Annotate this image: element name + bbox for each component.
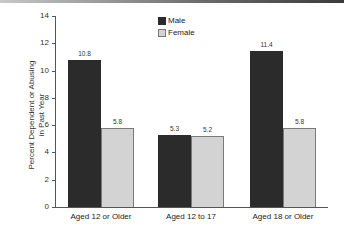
y-tick [52,125,56,126]
y-tick-label: 12 [29,38,49,47]
value-label: 5.3 [158,125,192,132]
top-border [0,0,344,3]
value-label: 5.8 [101,118,135,125]
legend-label-female: Female [168,27,195,39]
legend-item-female: Female [158,27,195,39]
female-swatch-icon [158,29,166,37]
category-label: Aged 12 to 17 [146,212,236,221]
y-tick [52,180,56,181]
y-tick [52,71,56,72]
y-tick [52,152,56,153]
bar-male [68,60,101,207]
y-axis-label: Percent Dependent or Abusing in Past Yea… [27,40,47,190]
y-tick-label: 8 [29,93,49,102]
y-tick-label: 10 [29,66,49,75]
value-label: 10.8 [68,50,102,57]
value-label: 11.4 [250,41,284,48]
male-swatch-icon [158,17,166,25]
y-tick-label: 0 [29,202,49,211]
y-tick [52,98,56,99]
y-axis [55,16,56,207]
y-tick-label: 2 [29,175,49,184]
y-tick [52,207,56,208]
y-tick [52,16,56,17]
y-axis-label-line-2: in Past Year [37,40,47,190]
bar-female [283,128,316,207]
bar-male [250,51,283,207]
y-tick [52,43,56,44]
x-axis [55,207,328,208]
bar-female [191,136,224,207]
y-axis-label-line-1: Percent Dependent or Abusing [27,40,37,190]
value-label: 5.8 [283,118,317,125]
y-tick-label: 4 [29,147,49,156]
bar-female [101,128,134,207]
category-label: Aged 12 or Older [56,212,146,221]
legend: Male Female [158,15,195,39]
legend-item-male: Male [158,15,195,27]
legend-label-male: Male [168,15,185,27]
y-tick-label: 6 [29,120,49,129]
value-label: 5.2 [191,126,225,133]
category-label: Aged 18 or Older [238,212,328,221]
bar-male [158,135,191,207]
y-tick-label: 14 [29,11,49,20]
